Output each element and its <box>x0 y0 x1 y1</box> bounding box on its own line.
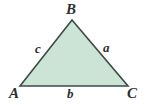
vertex-label-b: B <box>66 2 76 17</box>
vertex-label-a: A <box>9 86 19 101</box>
geometry-figure: B A C c a b <box>0 0 146 105</box>
side-label-c: c <box>35 42 41 55</box>
vertex-label-c: C <box>127 86 137 101</box>
side-label-b: b <box>67 87 74 100</box>
side-label-a: a <box>103 41 110 54</box>
